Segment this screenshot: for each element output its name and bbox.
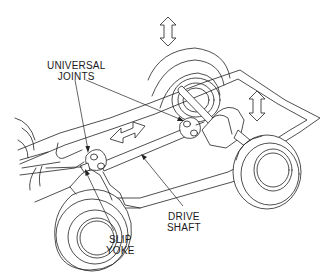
horizontal-double-arrow-icon: [110, 122, 145, 143]
drive-shaft-diagram: UNIVERSAL JOINTS DRIVE SHAFT SLIP YOKE: [0, 0, 324, 279]
universal-joints-label: UNIVERSAL JOINTS: [47, 60, 106, 82]
vertical-double-arrow-icon: [160, 17, 176, 46]
drive-shaft: [100, 127, 192, 171]
drive-shaft-label: DRIVE SHAFT: [167, 211, 201, 233]
rear-right-wheel: [233, 135, 301, 209]
chassis-illustration: [0, 0, 324, 279]
slip-yoke-label: SLIP YOKE: [106, 234, 135, 256]
vertical-double-arrow-icon: [249, 91, 265, 121]
